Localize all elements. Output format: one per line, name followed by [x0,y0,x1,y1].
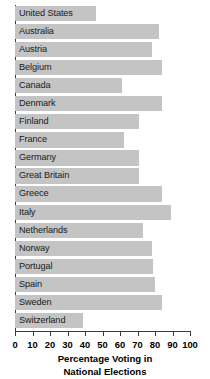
bar-row: Austria [15,41,190,59]
x-axis-tick [33,331,34,336]
bar-category-label: Australia [19,23,54,40]
bar-category-label: Netherlands [19,222,67,239]
bar-row: Netherlands [15,222,190,240]
bar-row: Finland [15,113,190,131]
bar-category-label: Italy [19,204,35,221]
axis-title-line-2: National Elections [0,366,210,379]
bar-row: Great Britain [15,167,190,185]
x-axis-tick-label: 100 [182,339,198,350]
x-axis-tick-label: 10 [27,339,37,350]
x-axis-tick-label: 80 [150,339,160,350]
axis-title-line-1: Percentage Voting in [0,353,210,366]
x-axis-tick [15,331,16,336]
bar-row: Denmark [15,95,190,113]
bar-row: Canada [15,77,190,95]
x-axis-tick-label: 70 [132,339,142,350]
bar-category-label: Switzerland [19,312,65,329]
bar-category-label: Canada [19,77,51,94]
bar-row: Sweden [15,294,190,312]
bar-category-label: Spain [19,276,42,293]
x-axis-tick-label: 30 [62,339,72,350]
x-axis-tick [155,331,156,336]
bar-row: Italy [15,204,190,222]
x-axis-tick-label: 90 [167,339,177,350]
x-axis-tick [50,331,51,336]
x-axis-tick [68,331,69,336]
bar-row: Switzerland [15,312,190,330]
x-tick-labels: 0102030405060708090100 [0,339,210,352]
bar-row: Norway [15,240,190,258]
bar-chart: United StatesAustraliaAustriaBelgiumCana… [0,0,210,379]
bar-category-label: Denmark [19,95,56,112]
x-axis-tick-label: 40 [80,339,90,350]
bar-category-label: Sweden [19,294,52,311]
bar-row: Spain [15,276,190,294]
x-axis-tick-label: 0 [12,339,17,350]
bar-category-label: Portugal [19,258,52,275]
bar-row: France [15,131,190,149]
x-axis-title: Percentage Voting in National Elections [0,353,210,378]
x-axis-tick [103,331,104,336]
x-axis-tick-label: 60 [115,339,125,350]
bar-category-label: Belgium [19,59,52,76]
x-axis-tick [85,331,86,336]
bar-category-label: Norway [19,240,50,257]
bar-row: United States [15,5,190,23]
plot-area: United StatesAustraliaAustriaBelgiumCana… [15,5,190,330]
bar-row: Australia [15,23,190,41]
bar-category-label: United States [19,5,73,22]
bar-category-label: Finland [19,113,48,130]
x-axis-tick [138,331,139,336]
bar-row: Belgium [15,59,190,77]
x-axis-tick [120,331,121,336]
x-axis-tick-label: 50 [97,339,107,350]
bar-category-label: Austria [19,41,47,58]
bar-category-label: Great Britain [19,167,69,184]
bar-category-label: Greece [19,185,49,202]
bar-row: Portugal [15,258,190,276]
bar [15,205,171,220]
bar-row: Greece [15,185,190,203]
x-axis-tick [173,331,174,336]
x-axis-tick-label: 20 [45,339,55,350]
bar-category-label: Germany [19,149,56,166]
bar-row: Germany [15,149,190,167]
bar-category-label: France [19,131,47,148]
x-axis-tick [190,331,191,336]
x-axis [15,331,190,339]
